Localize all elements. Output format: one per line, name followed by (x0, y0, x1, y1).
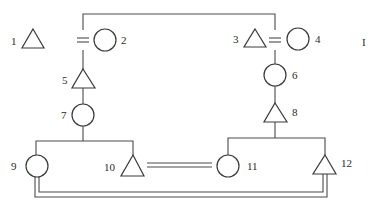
individual-5-triangle (72, 69, 95, 88)
union-3-4 (269, 38, 281, 42)
individual-12-triangle (313, 155, 336, 174)
label-11: 11 (247, 160, 258, 172)
label-1: 1 (11, 35, 17, 47)
label-12: 12 (341, 157, 352, 169)
label-10: 10 (104, 161, 116, 173)
individual-3-triangle (244, 29, 266, 47)
individual-8-triangle (264, 103, 287, 122)
individual-9-circle (26, 155, 48, 177)
individual-10-triangle (121, 155, 144, 176)
individual-11-circle (217, 155, 239, 177)
union-10-11 (147, 163, 212, 167)
label-5: 5 (62, 74, 68, 86)
top-connector (83, 14, 275, 30)
individual-6-circle (264, 64, 286, 86)
generation-marker: I (362, 36, 366, 48)
sibship-right (228, 138, 325, 155)
pedigree-diagram: 1 2 3 4 5 6 7 8 9 10 11 12 I (0, 0, 377, 204)
label-4: 4 (315, 33, 321, 45)
label-6: 6 (292, 69, 298, 81)
sibship-left (36, 141, 133, 155)
individual-2-circle (94, 29, 116, 51)
label-9: 9 (11, 160, 17, 172)
individual-4-circle (287, 28, 309, 50)
individual-7-circle (72, 104, 94, 126)
individual-1-triangle (22, 29, 44, 48)
union-9-12 (35, 173, 327, 197)
union-1-2 (77, 38, 89, 42)
label-3: 3 (233, 33, 239, 45)
label-8: 8 (292, 106, 298, 118)
descent-lines (83, 50, 275, 141)
label-7: 7 (61, 109, 67, 121)
label-2: 2 (121, 34, 127, 46)
